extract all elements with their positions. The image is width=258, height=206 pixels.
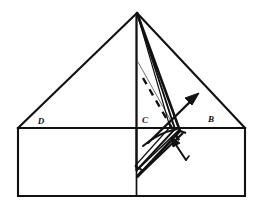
diagram-root: D C B — [0, 0, 258, 206]
label-c: C — [142, 115, 149, 125]
paper-folding-diagram: D C B — [0, 0, 258, 206]
label-d: D — [37, 116, 45, 126]
page-background — [0, 0, 258, 206]
label-b: B — [207, 114, 214, 124]
